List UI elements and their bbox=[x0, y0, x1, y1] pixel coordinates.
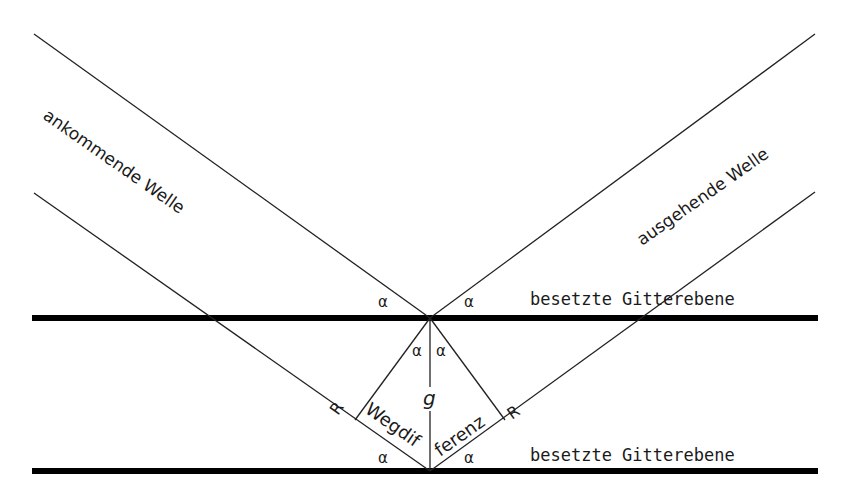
bragg-diagram: ankommende Welle ausgehende Welle besetz… bbox=[0, 0, 847, 501]
plane-upper-label: besetzte Gitterebene bbox=[530, 289, 735, 309]
outgoing-ray-lower bbox=[430, 192, 815, 471]
angle-alpha-upper-right: α bbox=[464, 293, 474, 311]
incoming-wave-label: ankommende Welle bbox=[40, 105, 189, 218]
angle-alpha-inner-left: α bbox=[412, 342, 422, 360]
right-angle-marker-right: R bbox=[503, 401, 523, 423]
angle-alpha-inner-right: α bbox=[436, 342, 446, 360]
perpendicular-left bbox=[355, 318, 430, 420]
incoming-ray-upper bbox=[34, 34, 430, 318]
angle-alpha-upper-left: α bbox=[378, 293, 388, 311]
outgoing-wave-label: ausgehende Welle bbox=[633, 143, 772, 249]
path-difference-label-part1: Wegdif bbox=[362, 398, 425, 451]
plane-lower-label: besetzte Gitterebene bbox=[530, 445, 735, 465]
spacing-label-g: g bbox=[423, 386, 436, 410]
angle-alpha-lower-left: α bbox=[378, 449, 388, 467]
outgoing-ray-upper bbox=[430, 34, 815, 318]
angle-alpha-lower-right: α bbox=[464, 449, 474, 467]
right-angle-marker-left: R bbox=[326, 398, 348, 418]
incoming-ray-lower bbox=[34, 193, 430, 471]
perpendicular-right bbox=[430, 318, 505, 420]
